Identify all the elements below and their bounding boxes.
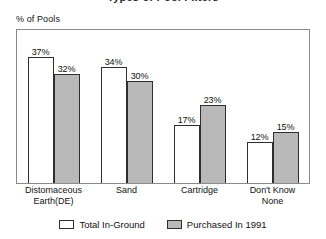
chart-page: Types of Pool Filters % of Pools 37%32%3… <box>0 0 326 239</box>
bar-value-label: 23% <box>204 95 222 105</box>
bar-1-series-1[interactable]: 30% <box>127 81 153 183</box>
chart-legend: Total In-GroundPurchased In 1991 <box>0 219 326 230</box>
bar-value-label: 15% <box>277 122 295 132</box>
bar-3-series-0[interactable]: 12% <box>247 142 273 183</box>
category-label-line: None <box>237 196 309 207</box>
bar-1-series-0[interactable]: 34% <box>101 67 127 183</box>
bar-pair: 17%23% <box>174 30 226 183</box>
category-labels: DistomaceousEarth(DE)SandCartridgeDon't … <box>17 185 309 217</box>
bar-0-series-1[interactable]: 32% <box>54 74 80 183</box>
bar-3-series-1[interactable]: 15% <box>273 132 299 183</box>
category-label-0: DistomaceousEarth(DE) <box>18 185 90 217</box>
y-axis-caption: % of Pools <box>16 14 60 24</box>
bar-value-label: 32% <box>58 64 76 74</box>
bar-value-label: 37% <box>32 47 50 57</box>
white-swatch <box>59 220 74 229</box>
legend-item-1[interactable]: Purchased In 1991 <box>167 219 267 230</box>
category-label-line: Cartridge <box>164 185 236 196</box>
bar-2-series-1[interactable]: 23% <box>200 105 226 183</box>
category-label-1: Sand <box>91 185 163 217</box>
legend-label: Total In-Ground <box>79 219 144 230</box>
bar-value-label: 12% <box>251 132 269 142</box>
legend-label: Purchased In 1991 <box>187 219 267 230</box>
bar-value-label: 17% <box>178 115 196 125</box>
category-label-3: Don't KnowNone <box>237 185 309 217</box>
bar-pair: 34%30% <box>101 30 153 183</box>
bars-area: 37%32%34%30%17%23%12%15% <box>17 30 309 183</box>
chart-title-clipped: Types of Pool Filters <box>0 0 326 3</box>
bar-pair: 12%15% <box>247 30 299 183</box>
category-label-2: Cartridge <box>164 185 236 217</box>
bar-group: 17%23% <box>174 30 226 183</box>
category-label-line: Earth(DE) <box>18 196 90 207</box>
bar-group: 37%32% <box>28 30 80 183</box>
bar-value-label: 30% <box>131 71 149 81</box>
bar-group: 34%30% <box>101 30 153 183</box>
legend-item-0[interactable]: Total In-Ground <box>59 219 144 230</box>
bar-2-series-0[interactable]: 17% <box>174 125 200 183</box>
bar-pair: 37%32% <box>28 30 80 183</box>
category-label-line: Distomaceous <box>18 185 90 196</box>
bar-group: 12%15% <box>247 30 299 183</box>
category-label-line: Don't Know <box>237 185 309 196</box>
gray-swatch <box>167 220 182 229</box>
bar-0-series-0[interactable]: 37% <box>28 57 54 183</box>
bar-value-label: 34% <box>105 57 123 67</box>
category-label-line: Sand <box>91 185 163 196</box>
